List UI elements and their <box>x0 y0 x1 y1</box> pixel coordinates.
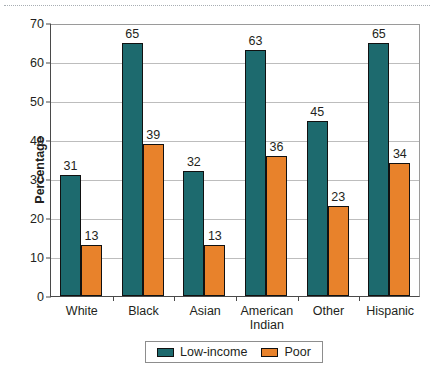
bar-group: 4523 <box>298 24 360 296</box>
y-tick-mark <box>46 297 51 298</box>
y-tick-label: 10 <box>30 251 44 265</box>
bar-poor: 13 <box>204 245 225 296</box>
chart-legend: Low-incomePoor <box>145 341 323 363</box>
bar-low-income: 65 <box>122 43 143 297</box>
y-tick-label: 40 <box>30 134 44 148</box>
bar-value-label: 65 <box>372 27 386 41</box>
y-tick-label: 20 <box>30 212 44 226</box>
x-axis-label: Other <box>313 304 344 318</box>
bar-value-label: 63 <box>249 34 263 48</box>
legend-item: Low-income <box>157 345 247 359</box>
legend-label: Low-income <box>180 345 247 359</box>
x-axis-label: Hispanic <box>366 304 414 318</box>
bar-value-label: 23 <box>331 190 345 204</box>
bar-group: 3213 <box>174 24 236 296</box>
x-axis-label: Black <box>128 304 159 318</box>
bar-chart-figure: Percentage 010203040506070 3113653932136… <box>0 0 434 371</box>
top-dotted-rule <box>4 5 430 6</box>
bar-value-label: 65 <box>125 27 139 41</box>
bar-group: 6336 <box>236 24 298 296</box>
x-tick-mark <box>359 296 360 301</box>
bar-group: 6534 <box>359 24 421 296</box>
bar-poor: 34 <box>389 163 410 296</box>
bar-low-income: 31 <box>60 175 81 296</box>
bar-low-income: 63 <box>245 50 266 296</box>
y-tick-label: 30 <box>30 173 44 187</box>
bar-value-label: 36 <box>270 140 284 154</box>
y-tick-label: 0 <box>37 290 44 304</box>
bar-value-label: 31 <box>64 159 78 173</box>
bar-value-label: 13 <box>85 229 99 243</box>
legend-label: Poor <box>284 345 310 359</box>
x-axis-label: American Indian <box>240 304 293 332</box>
y-tick-label: 60 <box>30 56 44 70</box>
bar-poor: 39 <box>143 144 164 296</box>
bar-group: 6539 <box>113 24 175 296</box>
y-tick-label: 70 <box>30 17 44 31</box>
bar-value-label: 32 <box>187 155 201 169</box>
bar-value-label: 34 <box>393 147 407 161</box>
x-axis-label: White <box>66 304 98 318</box>
y-tick-label: 50 <box>30 95 44 109</box>
x-tick-mark <box>113 296 114 301</box>
bar-value-label: 45 <box>310 105 324 119</box>
x-tick-mark <box>174 296 175 301</box>
bar-poor: 13 <box>81 245 102 296</box>
legend-item: Poor <box>261 345 310 359</box>
x-tick-mark <box>298 296 299 301</box>
bar-group: 3113 <box>51 24 113 296</box>
bar-value-label: 39 <box>146 128 160 142</box>
bar-value-label: 13 <box>208 229 222 243</box>
bar-low-income: 65 <box>368 43 389 297</box>
x-tick-mark <box>236 296 237 301</box>
x-axis-label: Asian <box>190 304 221 318</box>
plot-area: 010203040506070 311365393213633645236534… <box>50 24 420 297</box>
legend-swatch-poor <box>261 348 278 357</box>
bar-poor: 36 <box>266 156 287 296</box>
legend-swatch-low <box>157 348 174 357</box>
bar-low-income: 45 <box>307 121 328 297</box>
bar-low-income: 32 <box>183 171 204 296</box>
bar-poor: 23 <box>328 206 349 296</box>
